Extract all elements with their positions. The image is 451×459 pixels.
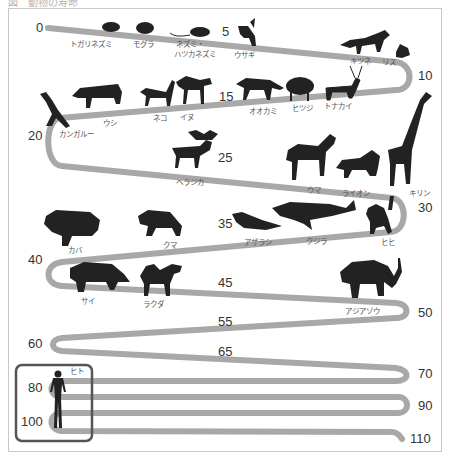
scale-label-90: 90 [418,398,432,413]
scale-label-55: 55 [218,314,232,329]
scale-label-10: 10 [418,68,432,83]
scale-label-30: 30 [418,200,432,215]
scale-label-110: 110 [410,431,431,446]
seal-icon [232,212,282,230]
rabbit-icon [238,18,256,46]
animal-label: ネズミ・ [176,39,204,49]
animal-label: トナカイ [324,102,352,111]
scale-label-25: 25 [218,150,232,165]
scale-label-40: 40 [28,252,42,267]
scale-label-100: 100 [21,414,43,429]
bear-icon [138,210,182,236]
animal-label: アザラシ [244,238,272,247]
scale-label-20: 20 [28,128,42,143]
animal-label: カバ [68,246,83,255]
fox-icon [340,30,390,54]
dog-icon [176,76,212,104]
animal-label: トガリネズミ [70,39,112,49]
animal-label: イヌ [180,113,194,122]
scale-label-45: 45 [218,275,232,290]
scale-label-5: 5 [222,24,229,39]
animal-label: ヘラジカ [176,178,204,187]
scale-label-15: 15 [219,89,233,104]
scale-label-65: 65 [218,344,232,359]
whale-icon [272,200,356,230]
animal-label: ヒヒ [381,238,395,247]
cow-icon [72,84,122,108]
animal-label: クジラ [306,237,327,246]
horse-icon [286,134,336,180]
animal-label: ヒト [70,367,84,376]
animal-label: リス [382,58,396,67]
scale-label-35: 35 [218,216,232,231]
scale-label-70: 70 [418,366,432,381]
moose-icon [172,130,218,168]
wolf-icon [236,78,284,100]
animal-label: オオカミ [249,107,277,116]
mouse-icon [190,27,210,37]
scale-label-0: 0 [36,20,43,35]
lion-icon [336,150,380,178]
cat-icon [140,80,175,106]
scale-label-60: 60 [28,336,42,351]
animal-label: ハツカネズミ [174,49,216,59]
scale-label-50: 50 [418,305,432,320]
lifespan-diagram: 0 5 10 15 20 25 30 35 40 45 50 55 60 65 … [0,0,451,459]
scale-label-80: 80 [28,380,42,395]
animal-label: ウマ [307,186,321,195]
animal-label: ネコ [153,114,167,123]
baboon-icon [366,196,394,234]
hippo-icon [44,210,100,246]
animal-label: キツネ [350,57,371,66]
animal-label: モグラ [133,39,154,49]
shrew-icon [102,22,120,32]
animal-label: ライオン [342,189,370,198]
mole-icon [136,22,154,34]
animal-label: ラクダ [143,299,165,309]
animal-label: サイ [81,297,95,306]
animal-label: キリン [409,189,430,198]
animal-label: カンガルー [59,129,94,139]
squirrel-icon [396,44,410,58]
animal-label: クマ [163,241,177,250]
giraffe-icon [388,92,432,186]
animal-label: ヒツジ [292,104,314,113]
animal-label: ウサギ [234,51,256,60]
animal-label: アジアゾウ [345,307,380,316]
elephant-icon [340,258,402,298]
animal-label: ウシ [103,119,117,128]
